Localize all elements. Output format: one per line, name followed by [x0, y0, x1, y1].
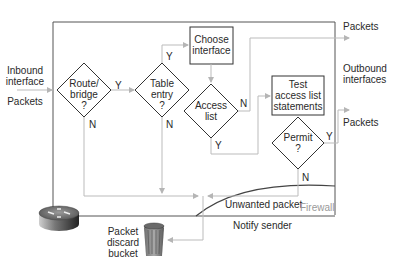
- choose-interface-label: Choose interface: [190, 34, 233, 56]
- router-icon: [39, 206, 79, 231]
- access-list-line1: Access: [191, 100, 231, 111]
- permit-line2: ?: [278, 143, 318, 154]
- discard-line3: bucket: [103, 248, 143, 259]
- notify-sender-label: Notify sender: [233, 220, 292, 231]
- choose-interface-line2: interface: [190, 45, 233, 56]
- discard-line1: Packet: [103, 226, 143, 237]
- table-yes-label: Y: [166, 51, 173, 62]
- outbound-packets-top-label: Packets: [343, 21, 379, 32]
- test-acl-line1: Test: [270, 79, 326, 90]
- discard-line2: discard: [103, 237, 143, 248]
- permit-line1: Permit: [278, 132, 318, 143]
- table-entry-line2: entry: [142, 89, 182, 100]
- permit-label: Permit ?: [278, 132, 318, 154]
- inbound-line1: Inbound: [0, 65, 50, 76]
- table-entry-line3: ?: [142, 100, 182, 111]
- access-list-label: Access list: [191, 100, 231, 122]
- access-yes-label: Y: [215, 140, 222, 151]
- route-bridge-line1: Route/: [64, 78, 104, 89]
- test-acl-line2: access list: [270, 90, 326, 101]
- outbound-line2: interfaces: [343, 74, 387, 85]
- test-acl-line3: statements: [270, 101, 326, 112]
- table-entry-label: Table entry ?: [142, 78, 182, 111]
- route-bridge-label: Route/ bridge ?: [64, 78, 104, 111]
- outbound-interfaces-label: Outbound interfaces: [343, 63, 387, 85]
- table-entry-line1: Table: [142, 78, 182, 89]
- trash-bin-icon: [144, 223, 164, 256]
- unwanted-packet-label: Unwanted packet: [225, 199, 302, 210]
- packet-discard-bucket-label: Packet discard bucket: [103, 226, 143, 259]
- outbound-packets-bottom-label: Packets: [343, 117, 379, 128]
- inbound-packets-label: Packets: [0, 96, 50, 107]
- permit-no-label: N: [302, 172, 309, 183]
- access-no-label: N: [240, 98, 247, 109]
- access-list-line2: list: [191, 111, 231, 122]
- route-no-label: N: [89, 119, 96, 130]
- firewall-label: Firewall: [300, 202, 334, 213]
- route-bridge-line3: ?: [64, 100, 104, 111]
- test-access-list-label: Test access list statements: [270, 79, 326, 112]
- inbound-interface-label: Inbound interface: [0, 65, 50, 87]
- route-bridge-line2: bridge: [64, 89, 104, 100]
- inbound-line2: interface: [0, 76, 50, 87]
- choose-interface-line1: Choose: [190, 34, 233, 45]
- table-no-label: N: [166, 119, 173, 130]
- route-yes-label: Y: [115, 80, 122, 91]
- outbound-line1: Outbound: [343, 63, 387, 74]
- permit-yes-label: Y: [326, 131, 333, 142]
